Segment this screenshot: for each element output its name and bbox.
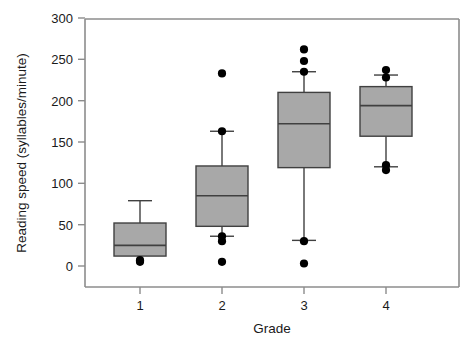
y-tick-label-150: 150 [51, 135, 73, 150]
y-tick-label-0: 0 [66, 259, 73, 274]
box-rect-1 [114, 223, 166, 256]
x-tick-label-4: 4 [382, 298, 389, 313]
x-tick-label-1: 1 [136, 298, 143, 313]
outlier-2-3 [218, 237, 226, 245]
outlier-1-1 [136, 258, 144, 266]
x-tick-label-2: 2 [218, 298, 225, 313]
box-group-4 [360, 66, 412, 174]
boxplot-figure: 0 50 100 150 200 250 300 1 2 3 4 Grade R… [0, 0, 474, 341]
y-axis-ticks [78, 18, 85, 266]
outlier-3-4 [300, 259, 308, 267]
x-axis-ticks [140, 287, 386, 294]
outlier-3-0 [300, 45, 308, 53]
box-rect-4 [360, 87, 412, 137]
outlier-2-4 [218, 258, 226, 266]
y-tick-label-250: 250 [51, 52, 73, 67]
outlier-4-0 [382, 66, 390, 74]
outlier-3-1 [300, 57, 308, 65]
boxplot-svg: 0 50 100 150 200 250 300 1 2 3 4 Grade R… [0, 0, 474, 341]
x-tick-label-3: 3 [300, 298, 307, 313]
boxes-layer [114, 45, 412, 267]
x-axis-title: Grade [253, 321, 291, 336]
box-group-3 [278, 45, 330, 267]
outlier-3-2 [300, 68, 308, 76]
outlier-2-1 [218, 127, 226, 135]
y-tick-label-50: 50 [59, 218, 73, 233]
y-axis-title: Reading speed (syllables/minute) [14, 53, 29, 253]
box-group-1 [114, 201, 166, 266]
outlier-3-3 [300, 237, 308, 245]
box-group-2 [196, 69, 248, 266]
outlier-4-3 [382, 166, 390, 174]
y-tick-label-200: 200 [51, 94, 73, 109]
outlier-4-1 [382, 73, 390, 81]
y-tick-label-100: 100 [51, 176, 73, 191]
box-rect-3 [278, 92, 330, 167]
y-tick-label-300: 300 [51, 11, 73, 26]
outlier-2-0 [218, 69, 226, 77]
